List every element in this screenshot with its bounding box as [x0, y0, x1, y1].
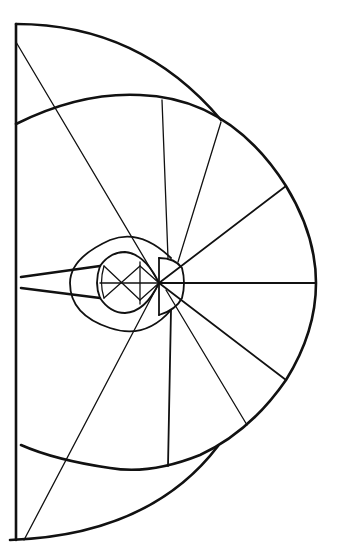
geometric-diagram [0, 0, 337, 554]
radial-line-lower-diagonal [24, 283, 159, 540]
radial-line-upper-diagonal [16, 42, 159, 283]
radial-line-7 [168, 310, 171, 466]
radial-line-6 [166, 290, 247, 425]
radial-line-5 [159, 283, 286, 380]
radial-line-3 [159, 186, 286, 283]
lens-back-arc [97, 266, 100, 298]
radial-line-1 [162, 100, 168, 258]
wedge-lower-edge [21, 288, 100, 298]
outer-top-arc [16, 24, 221, 120]
wedge-upper-edge [21, 266, 100, 277]
diagram-canvas [0, 0, 337, 554]
lens-inner-arc [102, 266, 105, 298]
